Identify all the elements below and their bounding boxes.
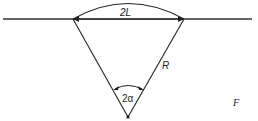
angle-label: 2α — [122, 93, 134, 104]
figure-caption-fragment: F of (A B — [233, 80, 244, 121]
center-point — [126, 115, 129, 118]
angle-arrow-right — [138, 86, 144, 90]
radius-left — [73, 19, 128, 117]
caption-line-1: F — [233, 98, 244, 107]
angle-arrow-left — [113, 86, 119, 90]
chord-label: 2L — [119, 7, 131, 18]
radius-right — [128, 19, 184, 117]
geometry-diagram: 2L R 2α — [0, 0, 258, 121]
angle-arc — [115, 86, 142, 90]
radius-label: R — [162, 60, 169, 71]
